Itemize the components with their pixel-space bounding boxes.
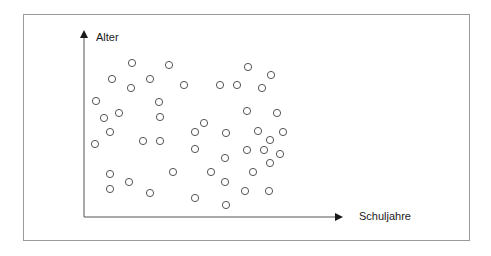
data-point	[216, 81, 223, 88]
data-point	[233, 81, 240, 88]
data-point	[156, 137, 163, 144]
scatter-plot	[0, 0, 491, 256]
data-point	[207, 168, 214, 175]
data-point	[127, 84, 134, 91]
data-point	[191, 128, 198, 135]
data-point	[100, 114, 107, 121]
data-point	[146, 75, 153, 82]
data-point	[92, 97, 99, 104]
data-point	[266, 159, 273, 166]
data-point	[128, 59, 135, 66]
data-point	[249, 168, 256, 175]
data-point	[221, 178, 228, 185]
data-point	[180, 81, 187, 88]
data-point	[169, 168, 176, 175]
data-point	[125, 178, 132, 185]
data-point	[222, 129, 229, 136]
y-axis-label: Alter	[96, 32, 119, 43]
data-point	[276, 150, 283, 157]
data-point	[243, 107, 250, 114]
data-point	[156, 113, 163, 120]
data-point	[266, 136, 273, 143]
data-point	[191, 194, 198, 201]
data-point	[115, 109, 122, 116]
data-point	[258, 84, 265, 91]
data-point	[200, 119, 207, 126]
data-point	[146, 189, 153, 196]
data-point	[273, 109, 280, 116]
data-point	[155, 98, 162, 105]
data-point	[243, 146, 250, 153]
data-point	[108, 75, 115, 82]
data-point	[106, 170, 113, 177]
x-axis-label: Schuljahre	[359, 211, 411, 222]
data-point	[139, 137, 146, 144]
data-point	[106, 128, 113, 135]
data-point	[165, 61, 172, 68]
data-point	[221, 154, 228, 161]
data-point	[106, 185, 113, 192]
data-points	[91, 59, 286, 208]
data-point	[260, 146, 267, 153]
data-point	[267, 71, 274, 78]
data-point	[191, 145, 198, 152]
data-point	[222, 201, 229, 208]
data-point	[241, 187, 248, 194]
data-point	[279, 128, 286, 135]
data-point	[254, 127, 261, 134]
data-point	[244, 63, 251, 70]
data-point	[265, 187, 272, 194]
data-point	[91, 140, 98, 147]
